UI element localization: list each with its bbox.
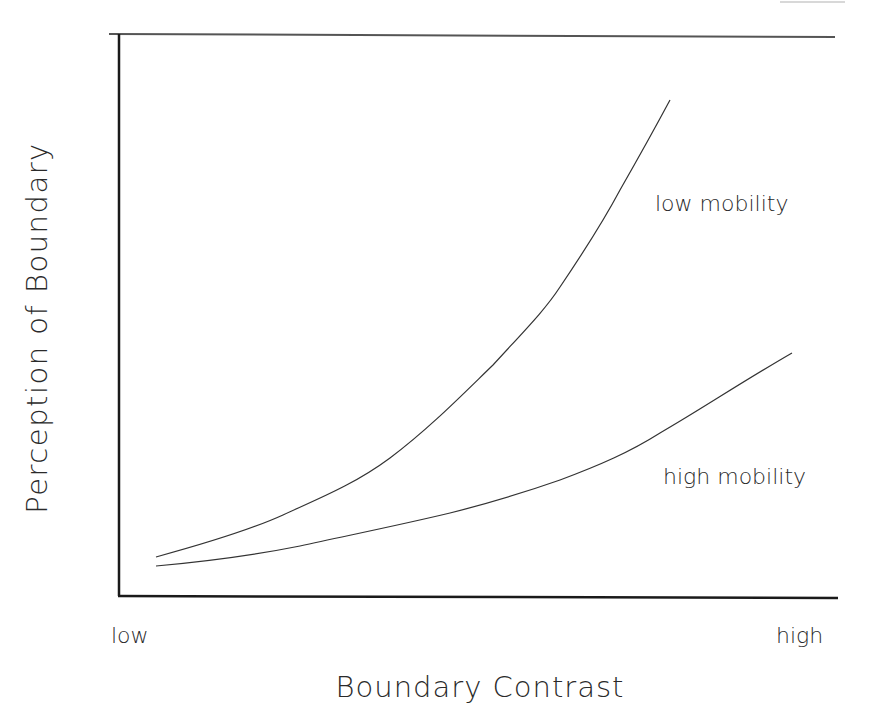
curve-high-mobility [156,353,792,566]
curve-low-mobility [156,100,670,557]
x-axis [118,596,838,598]
x-tick-low: low [111,623,149,648]
y-axis-label: Perception of Boundary [20,142,54,513]
chart: low mobility high mobility low high Boun… [0,0,871,728]
label-low-mobility: low mobility [655,191,788,216]
top-border [109,34,835,37]
x-axis-label: Boundary Contrast [336,670,625,704]
x-tick-high: high [776,623,823,648]
label-high-mobility: high mobility [663,464,806,489]
